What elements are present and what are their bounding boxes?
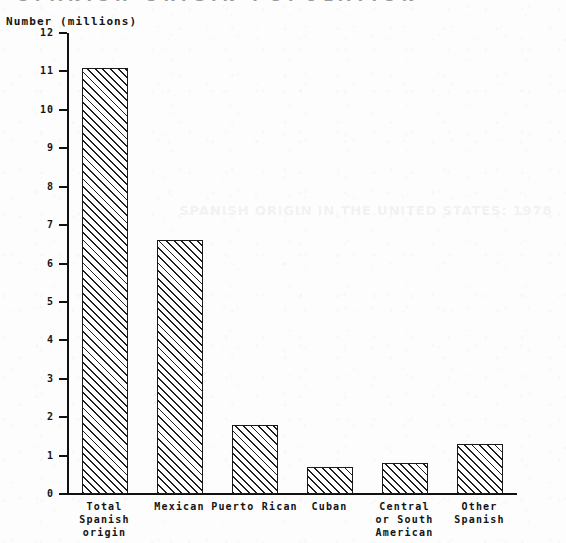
y-tick-mark <box>59 109 67 111</box>
y-tick-label: 10 <box>24 104 54 115</box>
x-category-label: Other Spanish <box>425 500 535 526</box>
y-tick-mark <box>59 493 67 495</box>
y-tick-label: 11 <box>24 65 54 76</box>
y-tick-mark <box>59 263 67 265</box>
bar-chart: Number (millions) 0123456789101112 Total… <box>0 0 566 543</box>
y-tick-label: 12 <box>24 27 54 38</box>
y-tick-mark <box>59 416 67 418</box>
bar <box>382 463 428 494</box>
y-tick-label: 0 <box>24 488 54 499</box>
bars-container <box>67 33 517 494</box>
y-tick-mark <box>59 32 67 34</box>
chart-page: SPANISH ORIGIN POPULATION SPANISH ORIGIN… <box>0 0 566 543</box>
bar <box>232 425 278 494</box>
y-tick-label: 2 <box>24 411 54 422</box>
y-tick-mark <box>59 70 67 72</box>
bar <box>157 240 203 494</box>
y-tick-mark <box>59 147 67 149</box>
y-tick-mark <box>59 378 67 380</box>
y-tick-label: 7 <box>24 219 54 230</box>
y-tick-label: 1 <box>24 450 54 461</box>
y-tick-label: 9 <box>24 142 54 153</box>
bar <box>82 68 128 494</box>
bar <box>307 467 353 494</box>
y-tick-label: 5 <box>24 296 54 307</box>
y-tick-label: 4 <box>24 334 54 345</box>
y-tick-label: 8 <box>24 181 54 192</box>
bar <box>457 444 503 494</box>
y-tick-label: 3 <box>24 373 54 384</box>
y-tick-mark <box>59 301 67 303</box>
y-tick-mark <box>59 455 67 457</box>
y-tick-mark <box>59 186 67 188</box>
y-tick-mark <box>59 339 67 341</box>
y-tick-mark <box>59 224 67 226</box>
y-tick-label: 6 <box>24 258 54 269</box>
